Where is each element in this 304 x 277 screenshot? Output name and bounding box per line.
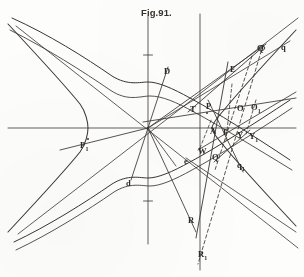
- asymptote-ascending: [18, 18, 298, 234]
- point-label-Q-upper: Q: [257, 44, 264, 53]
- point-label-A: A: [210, 127, 216, 136]
- point-label-O1: O1: [251, 103, 261, 114]
- point-label-F: F: [223, 128, 228, 137]
- line-centre-to-e: [148, 128, 176, 166]
- point-label-q1: q1: [237, 161, 245, 172]
- marker-P: [206, 112, 208, 114]
- point-label-Y1: Y1: [249, 132, 259, 143]
- point-label-q-upper: q: [281, 43, 286, 52]
- point-label-T: T: [190, 105, 196, 114]
- point-label-P: P: [206, 102, 211, 111]
- line-W-through-O: [198, 92, 296, 150]
- point-label-P1: P1: [80, 141, 89, 152]
- line-centre-to-d: [131, 128, 148, 180]
- marker-P1: [87, 138, 89, 140]
- point-label-O: O: [237, 104, 244, 113]
- point-label-Q-lower: Q: [212, 153, 219, 162]
- point-label-Y: Y: [237, 131, 243, 140]
- point-label-W: W: [198, 147, 207, 156]
- point-label-R: R: [188, 216, 194, 225]
- outer-conjugate-upper: [10, 30, 292, 170]
- point-label-E: E: [230, 65, 236, 74]
- point-label-e: e: [184, 157, 188, 166]
- marker-centre: [147, 127, 149, 129]
- conjugate-hyperbola-lower: [14, 100, 290, 242]
- point-label-R1: R1: [198, 250, 208, 261]
- figure-canvas: Fig.91. D d P1 T P E Q q O O1 A F Y Y1 W…: [0, 0, 304, 277]
- figure-title: Fig.91.: [141, 7, 172, 18]
- point-label-d: d: [126, 179, 131, 188]
- line-centre-to-P1: [60, 128, 148, 150]
- point-label-D: D: [164, 67, 170, 76]
